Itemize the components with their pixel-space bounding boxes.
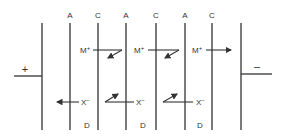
membrane-label: A: [123, 11, 129, 20]
cathode-electrode: –: [241, 23, 272, 130]
membrane-label: C: [95, 11, 101, 20]
anode-label: +: [22, 63, 28, 75]
anode-electrode: +: [14, 23, 42, 130]
cation-label: M+: [80, 45, 91, 55]
electrodialysis-diagram: + – A C A C A C D D D M+ M+: [0, 0, 285, 139]
membrane-c-2: C: [153, 11, 159, 130]
membrane-c-3: C: [209, 11, 215, 130]
anion-flux-2: X−: [105, 94, 145, 107]
compartment-label: D: [140, 121, 146, 130]
membrane-c-1: C: [95, 11, 101, 130]
compartment-label: D: [84, 121, 90, 130]
membrane-label: C: [209, 11, 215, 20]
cathode-label: –: [254, 60, 261, 72]
anion-flux-1: X−: [57, 97, 90, 107]
anion-label: X−: [196, 97, 205, 107]
anion-label: X−: [136, 97, 145, 107]
anion-label: X−: [81, 97, 90, 107]
cation-flux-1: M+: [80, 45, 122, 58]
membrane-a-2: A: [123, 11, 129, 130]
membrane-a-1: A: [67, 11, 73, 130]
membrane-label: C: [153, 11, 159, 20]
anion-flux-3: X−: [163, 94, 205, 107]
membrane-label: A: [182, 11, 188, 20]
cation-label: M+: [192, 45, 203, 55]
compartment-label: D: [197, 121, 203, 130]
cation-label: M+: [134, 45, 145, 55]
membrane-a-3: A: [182, 11, 188, 130]
membrane-label: A: [67, 11, 73, 20]
